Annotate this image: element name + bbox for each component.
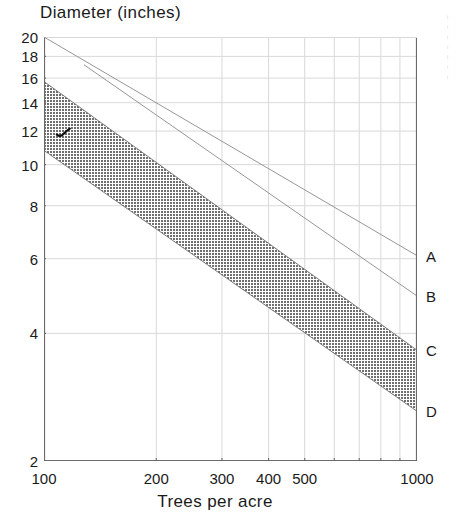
margin-note-line: i — [447, 42, 456, 52]
margin-note-line: i — [447, 22, 456, 32]
margin-note-line: i — [447, 62, 456, 72]
chart-figure: Diameter (inches) 2018161412108642 10020… — [0, 0, 456, 529]
margin-notes: iiiiiii — [447, 12, 456, 82]
x-tick-label: 300 — [209, 471, 234, 486]
margin-note-line: i — [447, 12, 456, 22]
x-tick-label: 100 — [31, 471, 56, 486]
x-tick-label: 1000 — [400, 471, 433, 486]
x-axis-ticks: 1002003004005001000 — [0, 0, 456, 529]
x-tick-label: 500 — [292, 471, 317, 486]
x-tick-label: 400 — [256, 471, 281, 486]
series-label-c: C — [426, 343, 437, 358]
x-axis-title: Trees per acre — [0, 492, 430, 512]
series-label-a: A — [426, 248, 436, 263]
margin-note-line: i — [447, 52, 456, 62]
x-tick-label: 200 — [144, 471, 169, 486]
margin-note-line: i — [447, 72, 456, 82]
margin-note-line: i — [447, 32, 456, 42]
series-label-d: D — [426, 404, 437, 419]
series-label-b: B — [426, 288, 436, 303]
